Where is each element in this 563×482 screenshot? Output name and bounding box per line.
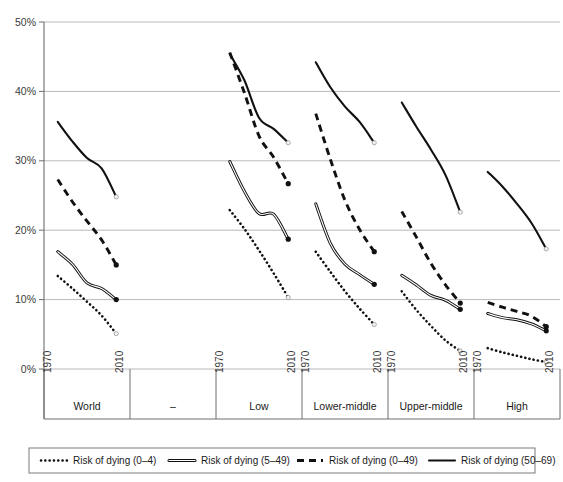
legend-item-risk_0_4[interactable]: Risk of dying (0–4) <box>41 455 156 466</box>
x-year-start: 1970 <box>214 350 225 373</box>
legend-label-risk_50_69: Risk of dying (50–69) <box>461 455 556 466</box>
y-axis-labels: 0%10%20%30%40%50% <box>15 16 36 375</box>
legend-item-risk_5_49[interactable]: Risk of dying (5–49) <box>169 455 290 466</box>
chart-page: 0%10%20%30%40%50% 1970201019702010197020… <box>0 0 563 482</box>
series-line-inner-risk_5_49 <box>230 161 288 239</box>
series-endpoint-risk_0_49 <box>286 181 291 186</box>
series-line-inner-risk_5_49 <box>316 204 374 284</box>
series-endpoint-risk_0_49 <box>114 262 119 267</box>
group-series-upper-middle <box>402 103 463 354</box>
group-series-world <box>58 122 119 336</box>
series-line-risk_0_4 <box>488 348 546 362</box>
series-line-risk_50_69 <box>316 62 374 143</box>
x-group-label: Upper-middle <box>399 400 462 412</box>
x-year-start: 1970 <box>472 350 483 373</box>
y-tick-label: 40% <box>15 85 36 97</box>
series-endpoint-risk_50_69 <box>544 247 548 251</box>
series-line-inner-risk_5_49 <box>488 313 546 330</box>
x-year-start: 1970 <box>386 350 397 373</box>
series-endpoint-risk_50_69 <box>286 141 290 145</box>
x-year-start: 1970 <box>42 350 53 373</box>
legend-label-risk_0_49: Risk of dying (0–49) <box>329 455 418 466</box>
series-line-risk_0_4 <box>402 291 460 351</box>
group-series-high <box>488 172 549 364</box>
x-axis-group-labels: World–LowLower-middleUpper-middleHigh <box>73 400 528 412</box>
series-line-risk_50_69 <box>402 103 460 213</box>
series-endpoint-risk_0_4 <box>372 322 376 326</box>
x-year-end: 2010 <box>544 350 555 373</box>
x-group-label: Lower-middle <box>313 400 376 412</box>
legend-item-risk_0_49[interactable]: Risk of dying (0–49) <box>297 455 418 466</box>
series-endpoint-risk_5_49 <box>458 307 463 312</box>
series-endpoint-risk_0_4 <box>286 295 290 299</box>
gridlines <box>44 22 560 369</box>
x-year-end: 2010 <box>458 350 469 373</box>
series-endpoint-risk_5_49 <box>372 282 377 287</box>
series-layer <box>58 53 549 365</box>
group-separators <box>44 369 560 419</box>
legend-item-risk_50_69[interactable]: Risk of dying (50–69) <box>429 455 556 466</box>
x-year-end: 2010 <box>114 350 125 373</box>
x-year-start: 1970 <box>300 350 311 373</box>
series-line-inner-risk_5_49 <box>58 252 116 300</box>
series-endpoint-risk_50_69 <box>372 141 376 145</box>
risk-of-dying-line-chart: 0%10%20%30%40%50% 1970201019702010197020… <box>0 0 563 482</box>
x-year-end: 2010 <box>286 350 297 373</box>
y-tick-label: 10% <box>15 293 36 305</box>
series-endpoint-risk_5_49 <box>544 328 549 333</box>
series-endpoint-risk_0_49 <box>458 300 463 305</box>
y-tick-label: 0% <box>21 363 36 375</box>
y-tick-label: 30% <box>15 154 36 166</box>
legend-label-risk_0_4: Risk of dying (0–4) <box>73 455 156 466</box>
series-endpoint-risk_0_4 <box>114 332 118 336</box>
x-group-label: Low <box>249 400 269 412</box>
group-series-lower-middle <box>316 62 377 326</box>
series-endpoint-risk_0_49 <box>372 249 377 254</box>
series-line-risk_50_69 <box>488 172 546 249</box>
series-endpoint-risk_50_69 <box>458 210 462 214</box>
series-line-risk_50_69 <box>58 122 116 197</box>
series-line-risk_5_49 <box>316 204 374 284</box>
x-year-end: 2010 <box>372 350 383 373</box>
legend-label-risk_5_49: Risk of dying (5–49) <box>201 455 290 466</box>
x-group-label: High <box>506 400 528 412</box>
series-endpoint-risk_5_49 <box>114 297 119 302</box>
x-group-label: World <box>73 400 100 412</box>
series-endpoint-risk_5_49 <box>286 237 291 242</box>
series-line-risk_50_69 <box>230 54 288 143</box>
series-line-risk_0_49 <box>402 211 460 303</box>
y-tick-label: 20% <box>15 224 36 236</box>
series-line-risk_5_49 <box>230 161 288 239</box>
series-line-risk_0_49 <box>58 180 116 265</box>
y-tick-label: 50% <box>15 16 36 28</box>
x-group-label: – <box>170 400 176 412</box>
group-series-low <box>230 53 291 300</box>
chart-legend: Risk of dying (0–4)Risk of dying (5–49)R… <box>29 448 556 473</box>
x-axis-year-labels: 1970201019702010197020101970201019702010 <box>42 350 555 373</box>
series-line-risk_0_49 <box>488 302 546 326</box>
y-axis-ticks <box>39 22 44 369</box>
series-endpoint-risk_50_69 <box>114 195 118 199</box>
